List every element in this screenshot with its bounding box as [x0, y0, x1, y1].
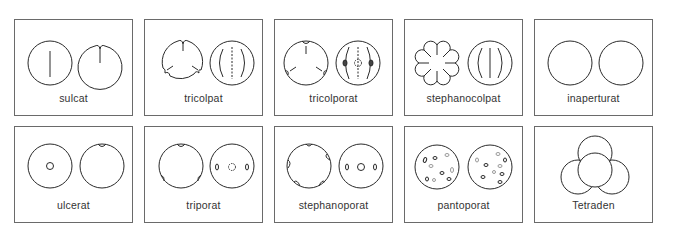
- panel-stephanoporat: stephanoporat: [274, 126, 393, 223]
- label-sulcat: sulcat: [15, 92, 132, 104]
- label-tricolporat: tricolporat: [275, 92, 392, 104]
- panel-sulcat: sulcat: [14, 19, 133, 116]
- label-tetraden: Tetraden: [535, 199, 652, 211]
- panel-tricolporat: tricolporat: [274, 19, 393, 116]
- panel-tricolpat: tricolpat: [144, 19, 263, 116]
- label-pantoporat: pantoporat: [405, 199, 522, 211]
- label-stephanoporat: stephanoporat: [275, 199, 392, 211]
- label-triporat: triporat: [145, 199, 262, 211]
- panel-triporat: triporat: [144, 126, 263, 223]
- panel-ulcerat: ulcerat: [14, 126, 133, 223]
- panel-stephanocolpat: stephanocolpat: [404, 19, 523, 116]
- label-stephanocolpat: stephanocolpat: [405, 92, 522, 104]
- label-ulcerat: ulcerat: [15, 199, 132, 211]
- panel-inaperturat: inaperturat: [534, 19, 653, 116]
- panel-tetraden: Tetraden: [534, 126, 653, 223]
- panel-pantoporat: pantoporat: [404, 126, 523, 223]
- label-inaperturat: inaperturat: [535, 92, 652, 104]
- label-tricolpat: tricolpat: [145, 92, 262, 104]
